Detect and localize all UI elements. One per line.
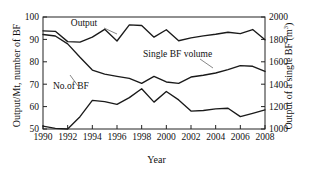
x-axis-title: Year xyxy=(0,154,313,165)
x-axis-tick-label: 1994 xyxy=(83,132,102,142)
x-axis-tick-label: 2008 xyxy=(256,132,275,142)
y-axis-right-title-exponent: 3 xyxy=(282,26,289,29)
series-line-single-bf-volume xyxy=(43,89,265,129)
y-axis-left-tick-label: 70 xyxy=(30,80,40,90)
y-axis-right-title: Output of a single BF (m3) xyxy=(282,16,294,136)
x-axis-tick-label: 1998 xyxy=(132,132,151,142)
x-axis-tick-label: 1990 xyxy=(34,132,53,142)
y-axis-left-tick-label: 60 xyxy=(30,102,40,112)
x-axis-tick-label: 2000 xyxy=(157,132,176,142)
y-axis-left-tick-label: 100 xyxy=(25,12,40,22)
y-axis-left-title: Output/Mt, number of BF xyxy=(11,16,22,136)
annotation-label-single-bf-volume: Single BF volume xyxy=(143,49,212,59)
annotation-label-output: Output xyxy=(71,18,98,28)
y-axis-right-title-suffix: ) xyxy=(283,23,294,26)
y-axis-right-title-prefix: Output of a single BF (m xyxy=(283,29,294,129)
chart-figure: 5060708090100100012001400160018002000199… xyxy=(0,0,313,173)
x-axis-tick-label: 2004 xyxy=(206,132,225,142)
y-axis-left-tick-label: 90 xyxy=(30,35,40,45)
annotation-label-no-of-bf: No.of BF xyxy=(53,81,89,91)
line-chart-canvas: 5060708090100100012001400160018002000199… xyxy=(0,0,313,173)
x-axis-tick-label: 1992 xyxy=(58,132,77,142)
y-axis-left-tick-label: 80 xyxy=(30,57,40,67)
x-axis-tick-label: 2006 xyxy=(231,132,250,142)
x-axis-tick-label: 2002 xyxy=(182,132,201,142)
annotation-leader-line xyxy=(200,59,213,68)
plot-frame xyxy=(43,17,265,129)
x-axis-tick-label: 1996 xyxy=(108,132,127,142)
